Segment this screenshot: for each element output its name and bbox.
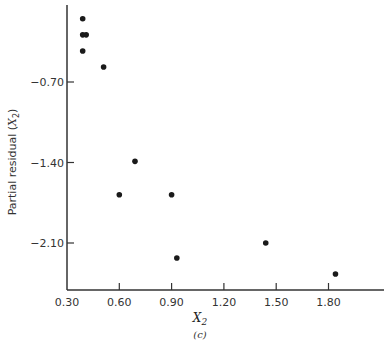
y-tick-label: −2.10 xyxy=(30,237,64,250)
data-point xyxy=(101,64,107,70)
y-tick-label: −1.40 xyxy=(30,157,64,170)
panel-label: (c) xyxy=(193,329,207,340)
data-point xyxy=(80,16,86,22)
data-point xyxy=(132,159,138,165)
data-point xyxy=(83,32,89,38)
scatter-chart: 0.300.600.901.201.501.80−0.70−1.40−2.10 … xyxy=(0,0,388,347)
x-tick-label: 0.90 xyxy=(159,296,184,309)
data-point xyxy=(169,192,175,198)
x-tick-label: 1.20 xyxy=(212,296,237,309)
data-point xyxy=(117,192,123,198)
data-point xyxy=(333,271,339,277)
x-tick-label: 1.50 xyxy=(264,296,289,309)
x-tick-label: 0.60 xyxy=(107,296,132,309)
y-tick-label: −0.70 xyxy=(30,76,64,89)
y-axis-label: Partial residual (X2) xyxy=(6,109,21,216)
data-point xyxy=(80,48,86,54)
x-tick-label: 0.30 xyxy=(55,296,80,309)
data-points xyxy=(80,16,338,277)
data-point xyxy=(174,255,180,261)
x-tick-label: 1.80 xyxy=(316,296,341,309)
x-axis-label: X2 xyxy=(192,311,208,327)
data-point xyxy=(263,240,269,246)
